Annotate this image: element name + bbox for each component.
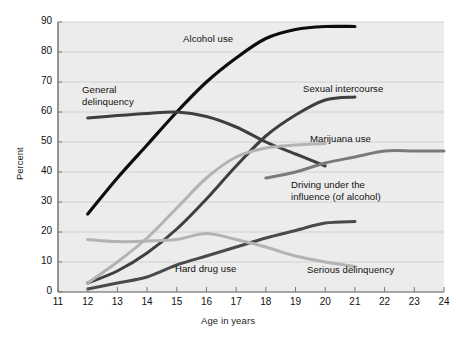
- x-tick-label: 15: [163, 296, 191, 307]
- y-tick-label: 10: [22, 255, 52, 266]
- label-alcohol-use: Alcohol use: [183, 33, 233, 45]
- label-dui: Driving under theinfluence (of alcohol): [291, 179, 381, 202]
- x-tick-label: 17: [222, 296, 250, 307]
- label-sexual-intercourse: Sexual intercourse: [303, 83, 383, 95]
- plot-background: [58, 22, 444, 292]
- label-alcohol-use-line: Alcohol use: [183, 33, 233, 45]
- label-dui-line: Driving under the: [291, 179, 381, 191]
- x-tick-label: 21: [341, 296, 369, 307]
- y-tick-label: 0: [22, 285, 52, 296]
- label-sexual-intercourse-line: Sexual intercourse: [303, 83, 383, 95]
- x-tick-label: 23: [400, 296, 428, 307]
- label-general-delinquency: Generaldelinquency: [82, 84, 134, 107]
- x-tick-label: 20: [311, 296, 339, 307]
- y-tick-label: 60: [22, 105, 52, 116]
- label-marijuana-use: Marijuana use: [310, 133, 371, 145]
- x-tick-label: 19: [282, 296, 310, 307]
- label-hard-drug-use: Hard drug use: [175, 263, 236, 275]
- chart-figure: 1112131415161718192021222324010203040506…: [0, 0, 456, 339]
- label-dui-line: influence (of alcohol): [291, 191, 381, 203]
- x-tick-label: 22: [371, 296, 399, 307]
- x-tick-label: 16: [192, 296, 220, 307]
- x-tick-label: 14: [133, 296, 161, 307]
- x-tick-label: 24: [430, 296, 456, 307]
- x-tick-label: 11: [44, 296, 72, 307]
- y-tick-label: 80: [22, 45, 52, 56]
- label-serious-delinquency-line: Serious delinquency: [307, 264, 394, 276]
- y-tick-label: 30: [22, 195, 52, 206]
- y-tick-label: 50: [22, 135, 52, 146]
- y-axis-title: Percent: [14, 147, 25, 180]
- x-tick-label: 18: [252, 296, 280, 307]
- x-tick-label: 13: [103, 296, 131, 307]
- label-hard-drug-use-line: Hard drug use: [175, 263, 236, 275]
- y-tick-label: 70: [22, 75, 52, 86]
- y-tick-label: 20: [22, 225, 52, 236]
- y-tick-label: 90: [22, 15, 52, 26]
- label-marijuana-use-line: Marijuana use: [310, 133, 371, 145]
- y-tick-label: 40: [22, 165, 52, 176]
- chart-canvas: [0, 0, 456, 339]
- x-tick-label: 12: [74, 296, 102, 307]
- x-axis-title: Age in years: [0, 315, 456, 326]
- label-serious-delinquency: Serious delinquency: [307, 264, 394, 276]
- label-general-delinquency-line: General: [82, 84, 134, 96]
- label-general-delinquency-line: delinquency: [82, 96, 134, 108]
